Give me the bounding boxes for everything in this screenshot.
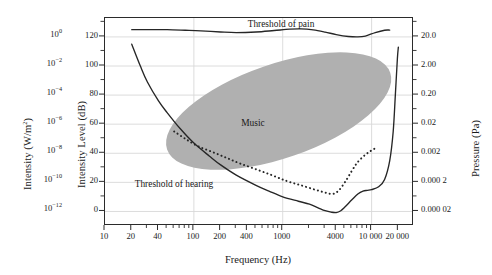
pressure-tick-label-100: 2.00	[421, 60, 477, 69]
intensity-tick-label-120: 100	[26, 30, 62, 39]
pressure-tick-label-0: 0.000 02	[421, 205, 477, 214]
intensity-tick-label-40: 10−8	[26, 146, 62, 155]
pressure-tick-label-80: 0.20	[421, 89, 477, 98]
x-tick-label-1000: 1000	[256, 232, 308, 241]
label-music-text: Music	[241, 118, 264, 128]
audibility-chart-figure: Intensity (W/m2) Intensity Level (dB) Pr…	[0, 0, 492, 275]
x-tick-label-20000: 20 000	[371, 232, 423, 241]
pressure-tick-label-60: 0.02	[421, 118, 477, 127]
label-threshold-of-hearing-text: Threshold of hearing	[135, 179, 214, 189]
label-threshold-of-pain: Threshold of pain	[216, 19, 346, 30]
db-tick-label-100: 100	[68, 60, 98, 69]
axis-title-intensity-level-text: Intensity Level (dB)	[76, 101, 87, 188]
plot-area: Threshold of pain Music Threshold of hea…	[104, 17, 413, 225]
label-threshold-of-hearing: Threshold of hearing	[128, 179, 220, 190]
intensity-tick-label-100: 10−2	[26, 59, 62, 68]
db-tick-label-20: 20	[68, 176, 98, 185]
db-tick-label-80: 80	[68, 89, 98, 98]
pressure-tick-label-20: 0.000 2	[421, 176, 477, 185]
db-tick-label-60: 60	[68, 118, 98, 127]
label-threshold-of-pain-text: Threshold of pain	[248, 19, 315, 29]
db-tick-label-40: 40	[68, 147, 98, 156]
db-tick-label-0: 0	[68, 205, 98, 214]
axis-title-frequency: Frequency (Hz)	[188, 255, 328, 266]
intensity-tick-label-20: 10−10	[26, 175, 62, 184]
db-tick-label-120: 120	[68, 31, 98, 40]
intensity-tick-label-80: 10−4	[26, 88, 62, 97]
intensity-tick-label-60: 10−6	[26, 117, 62, 126]
pressure-tick-label-40: 0.002	[421, 147, 477, 156]
axis-title-frequency-text: Frequency (Hz)	[225, 254, 291, 265]
axis-title-intensity-level: Intensity Level (dB)	[76, 101, 87, 188]
pressure-tick-label-120: 20.0	[421, 31, 477, 40]
label-music: Music	[223, 118, 283, 129]
intensity-tick-label-0: 10−12	[26, 204, 62, 213]
